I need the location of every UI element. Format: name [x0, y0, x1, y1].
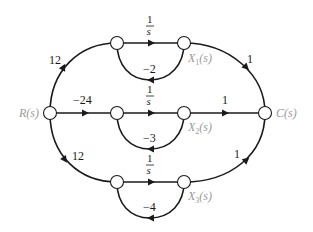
node-x1: [178, 37, 191, 50]
gain-x1-to-c: 1: [247, 52, 253, 66]
label-r: R(s): [18, 106, 39, 120]
svg-text:1: 1: [147, 152, 153, 164]
svg-text:s: s: [147, 25, 151, 37]
svg-text:1: 1: [147, 83, 153, 95]
gain-integrator-mid: 1 s: [146, 83, 154, 107]
label-x3: X3(s): [187, 189, 212, 205]
label-c: C(s): [276, 106, 297, 120]
label-x1: X1(s): [187, 51, 212, 67]
arrow-r-to-mid: [82, 110, 89, 117]
node-top-left: [111, 37, 124, 50]
arrow-integrator-top: [148, 40, 155, 47]
node-r: [44, 107, 57, 120]
gain-r-to-top: 12: [49, 53, 61, 67]
edge-r-to-bot: [50, 113, 117, 182]
gain-loop-bot: −4: [143, 200, 156, 214]
arrow-x3-to-c: [242, 155, 252, 165]
arrow-integrator-bot: [148, 179, 155, 186]
gain-integrator-top: 1 s: [146, 13, 154, 37]
signal-flow-graph: R(s) C(s) X1(s) X2(s) X3(s) 12 −24 12 1 …: [0, 0, 313, 232]
gain-x3-to-c: 1: [234, 147, 240, 161]
node-x3: [178, 176, 191, 189]
gain-integrator-bot: 1 s: [146, 152, 154, 176]
svg-text:1: 1: [147, 13, 153, 25]
gain-loop-top: −2: [143, 62, 156, 76]
gain-x2-to-c: 1: [222, 93, 228, 107]
node-x2: [178, 107, 191, 120]
node-mid-left: [111, 107, 124, 120]
edge-x3-to-c: [184, 113, 265, 182]
arrow-integrator-mid: [148, 110, 155, 117]
svg-text:s: s: [147, 95, 151, 107]
gain-r-to-mid: −24: [73, 93, 92, 107]
node-bot-left: [111, 176, 124, 189]
gain-r-to-bot: 12: [72, 149, 84, 163]
svg-text:s: s: [147, 164, 151, 176]
gain-loop-mid: −3: [143, 131, 156, 145]
arrow-x2-to-c: [222, 110, 229, 117]
node-c: [259, 107, 272, 120]
arrow-loop-bot: [147, 215, 154, 222]
label-x2: X2(s): [187, 120, 212, 136]
